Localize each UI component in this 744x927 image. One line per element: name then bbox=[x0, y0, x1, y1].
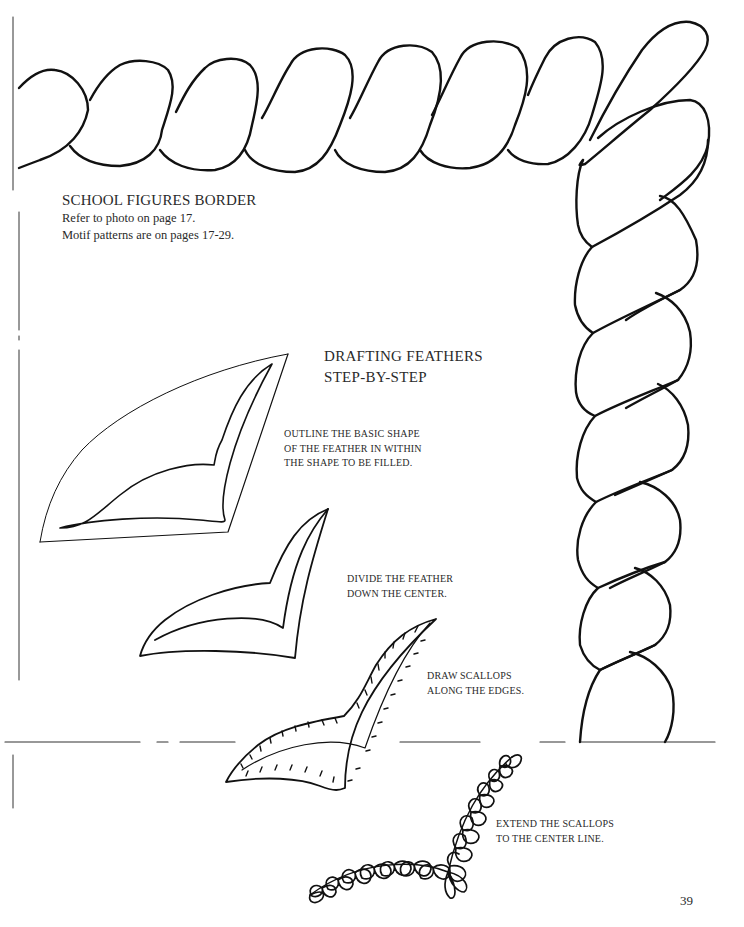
step-1-line-3: THE SHAPE TO BE FILLED. bbox=[284, 456, 422, 471]
feather-step-3 bbox=[226, 619, 436, 790]
border-note-motifs: Motif patterns are on pages 17-29. bbox=[62, 227, 257, 244]
feather-step-2 bbox=[140, 509, 328, 658]
step-3-line-1: DRAW SCALLOPS bbox=[427, 669, 524, 684]
step-4-line-2: TO THE CENTER LINE. bbox=[496, 832, 614, 847]
step-1-caption: OUTLINE THE BASIC SHAPE OF THE FEATHER I… bbox=[284, 427, 422, 471]
step-4-line-1: EXTEND THE SCALLOPS bbox=[496, 817, 614, 832]
section-title: DRAFTING FEATHERS STEP-BY-STEP bbox=[324, 346, 483, 388]
border-title: SCHOOL FIGURES BORDER bbox=[62, 190, 257, 210]
feather-step-1 bbox=[40, 354, 288, 542]
step-2-caption: DIVIDE THE FEATHER DOWN THE CENTER. bbox=[347, 572, 453, 601]
section-title-line-2: STEP-BY-STEP bbox=[324, 367, 483, 388]
rope-border-right bbox=[575, 140, 708, 742]
step-3-line-2: ALONG THE EDGES. bbox=[427, 684, 524, 699]
step-2-line-1: DIVIDE THE FEATHER bbox=[347, 572, 453, 587]
border-title-block: SCHOOL FIGURES BORDER Refer to photo on … bbox=[62, 190, 257, 244]
section-title-line-1: DRAFTING FEATHERS bbox=[324, 346, 483, 367]
feather-step-4 bbox=[310, 755, 522, 902]
step-4-caption: EXTEND THE SCALLOPS TO THE CENTER LINE. bbox=[496, 817, 614, 846]
step-1-line-2: OF THE FEATHER IN WITHIN bbox=[284, 442, 422, 457]
step-2-line-2: DOWN THE CENTER. bbox=[347, 587, 453, 602]
rope-border-top bbox=[19, 22, 709, 200]
border-note-photo: Refer to photo on page 17. bbox=[62, 210, 257, 227]
left-margin-guide bbox=[13, 17, 19, 808]
page-number: 39 bbox=[680, 893, 693, 909]
step-1-line-1: OUTLINE THE BASIC SHAPE bbox=[284, 427, 422, 442]
step-3-caption: DRAW SCALLOPS ALONG THE EDGES. bbox=[427, 669, 524, 698]
